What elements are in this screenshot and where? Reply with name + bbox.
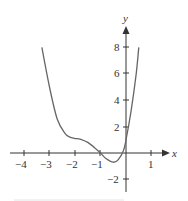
x-tick-label: 1 (148, 158, 154, 170)
y-axis-label: y (122, 12, 128, 24)
x-tick-label: −4 (15, 158, 27, 170)
y-tick-label: 8 (114, 41, 120, 53)
x-axis-arrow-icon (162, 150, 170, 157)
y-axis-arrow-icon (123, 26, 130, 34)
y-tick-label: 2 (114, 121, 120, 133)
y-tick-label: 6 (114, 67, 120, 79)
function-graph: x y −4 −3 −2 −1 1 8 6 4 2 −2 (0, 0, 188, 201)
y-tick-label: 4 (114, 94, 120, 106)
x-tick-label: −2 (66, 158, 78, 170)
x-tick-label: −3 (40, 158, 52, 170)
function-curve (42, 47, 139, 162)
x-axis-label: x (171, 147, 177, 159)
x-tick-label: −1 (91, 158, 103, 170)
y-tick-label: −2 (107, 173, 119, 185)
